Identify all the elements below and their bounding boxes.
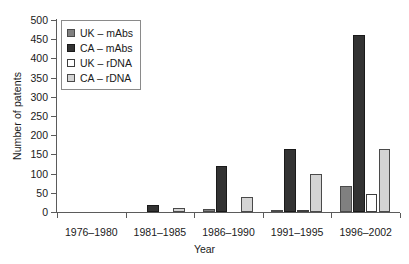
legend-item-label: CA – rDNA [80, 72, 131, 84]
x-axis-tick [194, 213, 195, 218]
x-axis-tick-label: 1976–1980 [57, 226, 126, 238]
y-axis-tick-label: 100 [8, 169, 48, 179]
legend-item[interactable]: UK – rDNA [67, 55, 133, 70]
y-axis-tick [51, 58, 56, 59]
y-axis-tick-label: 300 [8, 92, 48, 102]
x-axis-tick [57, 213, 58, 218]
y-axis-tick [51, 174, 56, 175]
bar [216, 166, 228, 212]
x-axis-tick-label: 1991–1995 [263, 226, 332, 238]
y-axis-tick-label: 50 [8, 188, 48, 198]
legend-swatch-icon [67, 74, 75, 82]
y-axis-tick-label: 200 [8, 130, 48, 140]
y-axis-tick [51, 39, 56, 40]
legend-item[interactable]: CA – mAbs [67, 40, 133, 55]
legend-item-label: UK – rDNA [80, 57, 132, 69]
bar [147, 205, 159, 212]
y-axis-tick-label: 150 [8, 149, 48, 159]
y-axis-tick-label: 0 [8, 207, 48, 217]
legend-item-label: UK – mAbs [80, 27, 133, 39]
bar [379, 149, 391, 212]
y-axis-tick [51, 135, 56, 136]
bar [297, 210, 309, 212]
x-axis-tick [400, 213, 401, 218]
y-axis-tick [51, 193, 56, 194]
chart-legend: UK – mAbsCA – mAbsUK – rDNACA – rDNA [61, 20, 141, 90]
x-axis-tick-label: 1996–2002 [331, 226, 400, 238]
bar [310, 174, 322, 212]
patents-bar-chart: Number of patents 0501001502002503003504… [0, 0, 409, 264]
y-axis-tick-label: 450 [8, 34, 48, 44]
y-axis-tick-label: 500 [8, 15, 48, 25]
x-axis-line [56, 212, 400, 213]
y-axis-tick [51, 20, 56, 21]
y-axis-tick-label: 250 [8, 111, 48, 121]
x-axis-tick-label: 1981–1985 [126, 226, 195, 238]
bar [366, 194, 378, 212]
y-axis-tick [51, 78, 56, 79]
bar [284, 149, 296, 212]
x-axis-tick-label: 1986–1990 [194, 226, 263, 238]
bar [241, 197, 253, 212]
bar [271, 210, 283, 212]
bar [353, 35, 365, 212]
legend-item[interactable]: CA – rDNA [67, 70, 133, 85]
bar [203, 209, 215, 212]
y-axis-tick [51, 212, 56, 213]
legend-item-label: CA – mAbs [80, 42, 133, 54]
x-axis-tick [331, 213, 332, 218]
x-axis-title: Year [0, 243, 409, 255]
legend-swatch-icon [67, 44, 75, 52]
y-axis-tick [51, 116, 56, 117]
y-axis-tick-label: 400 [8, 53, 48, 63]
bar [340, 186, 352, 212]
y-axis-tick [51, 97, 56, 98]
x-axis-tick [263, 213, 264, 218]
legend-item[interactable]: UK – mAbs [67, 25, 133, 40]
y-axis-tick-label: 350 [8, 73, 48, 83]
y-axis-tick [51, 154, 56, 155]
legend-swatch-icon [67, 59, 75, 67]
x-axis-tick [126, 213, 127, 218]
bar [173, 208, 185, 212]
legend-swatch-icon [67, 29, 75, 37]
